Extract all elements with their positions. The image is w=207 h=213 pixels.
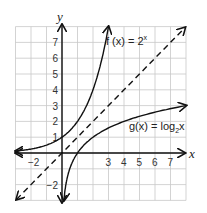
x-tick-label: −2 xyxy=(28,157,40,168)
x-tick-label: 5 xyxy=(137,157,143,168)
y-axis-label: y xyxy=(55,9,63,24)
y-tick-label: 2 xyxy=(52,116,58,127)
identity-line xyxy=(17,28,186,200)
f-label: f (x) = 2x xyxy=(106,34,148,47)
x-tick-label: 7 xyxy=(168,157,174,168)
x-tick-label: 6 xyxy=(152,157,158,168)
y-tick-label: 5 xyxy=(52,69,58,80)
y-tick-label: −2 xyxy=(47,180,59,191)
x-tick-label: 4 xyxy=(121,157,127,168)
x-axis-label: x xyxy=(188,146,195,161)
x-tick-label: 3 xyxy=(106,157,112,168)
y-tick-label: 6 xyxy=(52,53,58,64)
y-tick-label: 3 xyxy=(52,101,58,112)
chart: −2345677654321−2 y x f (x) = 2x g(x) = l… xyxy=(0,0,207,213)
g-label: g(x) = log2x xyxy=(129,120,185,134)
curves xyxy=(16,27,187,201)
y-tick-label: 4 xyxy=(52,85,58,96)
axes: −2345677654321−2 xyxy=(16,25,186,203)
y-tick-label: 7 xyxy=(52,37,58,48)
